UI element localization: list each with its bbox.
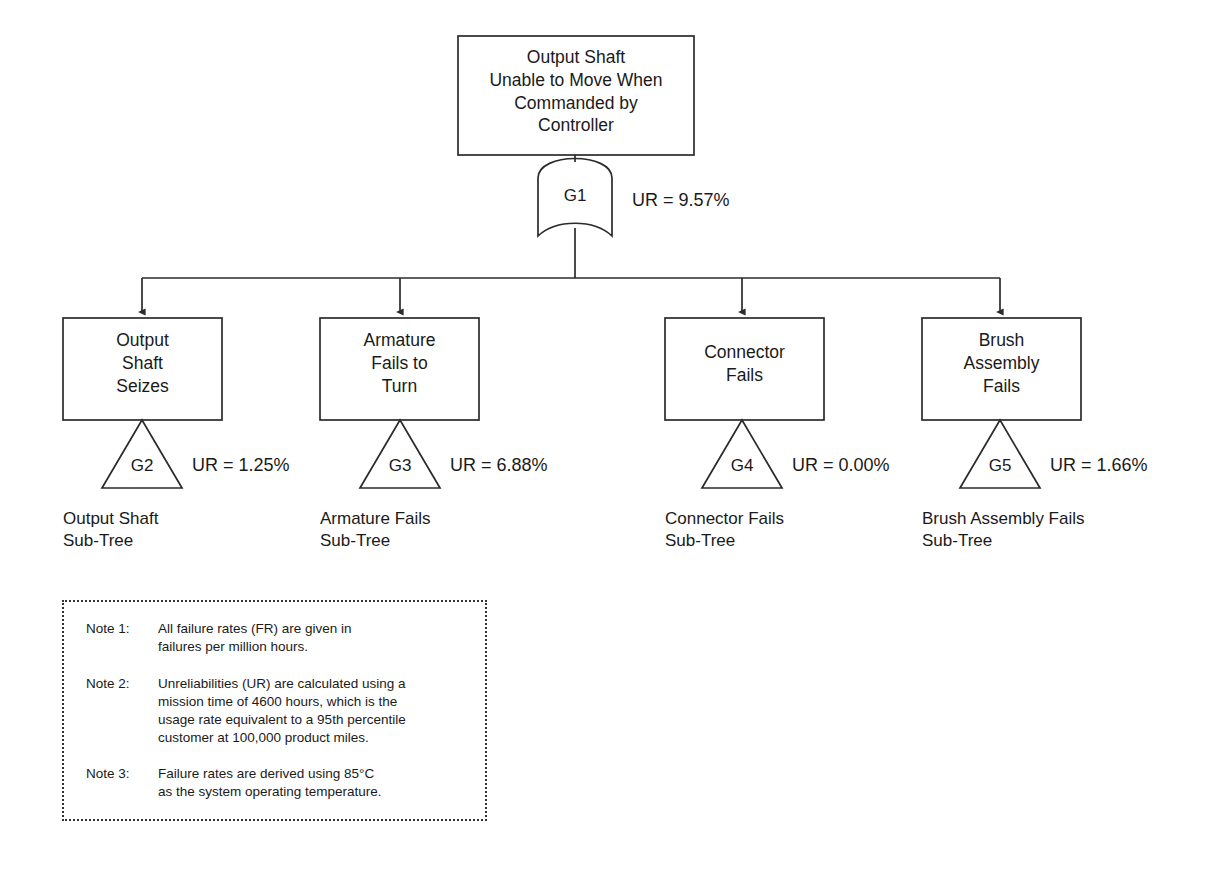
note-row: Note 1: All failure rates (FR) are given… xyxy=(86,620,476,656)
ur-label-g2: UR = 1.25% xyxy=(192,455,290,476)
gate-label-g2: G2 xyxy=(112,456,172,476)
gate-label-g1: G1 xyxy=(538,186,612,206)
ur-label-g3: UR = 6.88% xyxy=(450,455,548,476)
note-body: All failure rates (FR) are given in fail… xyxy=(158,620,352,656)
branch-event-box-3 xyxy=(665,318,824,420)
transfer-triangle-g2 xyxy=(102,420,182,488)
note-row: Note 3: Failure rates are derived using … xyxy=(86,765,476,801)
note-body: Unreliabilities (UR) are calculated usin… xyxy=(158,675,406,747)
gate-label-g5: G5 xyxy=(970,456,1030,476)
transfer-triangle-g3 xyxy=(360,420,440,488)
branch-event-box-1 xyxy=(63,318,222,420)
subtree-label-4: Brush Assembly Fails Sub-Tree xyxy=(922,508,1085,552)
note-key: Note 1: xyxy=(86,620,158,638)
fault-tree-diagram: Output Shaft Unable to Move When Command… xyxy=(0,0,1215,869)
gate-label-g3: G3 xyxy=(370,456,430,476)
transfer-triangle-g5 xyxy=(960,420,1040,488)
ur-label-g5: UR = 1.66% xyxy=(1050,455,1148,476)
subtree-label-1: Output Shaft Sub-Tree xyxy=(63,508,158,552)
subtree-label-3: Connector Fails Sub-Tree xyxy=(665,508,784,552)
branch-event-box-2 xyxy=(320,318,479,420)
note-row: Note 2: Unreliabilities (UR) are calcula… xyxy=(86,675,476,747)
branch-event-box-4 xyxy=(922,318,1081,420)
ur-label-g1: UR = 9.57% xyxy=(632,190,730,211)
notes-box: Note 1: All failure rates (FR) are given… xyxy=(62,600,487,821)
ur-label-g4: UR = 0.00% xyxy=(792,455,890,476)
subtree-label-2: Armature Fails Sub-Tree xyxy=(320,508,431,552)
transfer-triangle-g4 xyxy=(702,420,782,488)
note-key: Note 2: xyxy=(86,675,158,693)
top-event-box xyxy=(458,36,694,155)
note-key: Note 3: xyxy=(86,765,158,783)
gate-label-g4: G4 xyxy=(712,456,772,476)
note-body: Failure rates are derived using 85°C as … xyxy=(158,765,382,801)
